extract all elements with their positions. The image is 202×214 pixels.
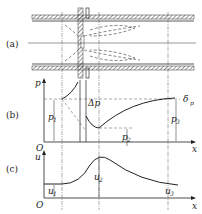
u3-sub: 3: [170, 190, 174, 197]
p1-sub: 1: [53, 116, 57, 123]
panel-b-label: (b): [6, 110, 19, 120]
delta-p-label: Δp: [87, 98, 100, 108]
orifice-flow-diagram: (a) (b) p O x p 1 p 2 p 3 Δp δ p (c) u O: [0, 0, 202, 214]
p3-sub: 3: [176, 118, 180, 125]
u2-sub: 2: [98, 176, 103, 183]
pipe-section: [28, 8, 196, 210]
x-axis-label-b: x: [192, 144, 197, 154]
delta-sub: p: [190, 99, 194, 107]
p-axis-label: p: [35, 78, 41, 88]
x-axis-label-c: x: [192, 201, 197, 211]
origin-label-c: O: [36, 200, 44, 210]
panel-a-label: (a): [6, 39, 18, 49]
u1-sub: 1: [53, 190, 57, 197]
panel-c-label: (c): [6, 164, 18, 174]
delta-label: δ: [183, 94, 188, 104]
u-axis-label: u: [35, 152, 41, 162]
pressure-chart: [42, 78, 196, 146]
p2-sub: 2: [126, 136, 131, 143]
